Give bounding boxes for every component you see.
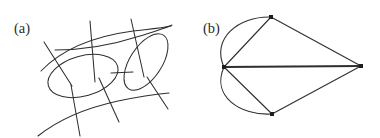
edge-left-right-spine xyxy=(224,66,361,67)
vertex-top-dot xyxy=(269,15,273,19)
vertex-bottom-dot xyxy=(270,112,274,116)
figure-canvas: (a) xyxy=(0,0,380,138)
figure-container: (a) xyxy=(0,0,380,138)
figure-background xyxy=(0,0,380,138)
vertex-left-dot xyxy=(222,65,226,69)
panel-b-label: (b) xyxy=(203,20,220,37)
panel-a-label: (a) xyxy=(14,20,30,37)
vertex-right-dot xyxy=(359,64,363,68)
